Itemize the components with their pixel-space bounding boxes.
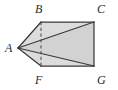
- vertex-label-g: G: [97, 74, 106, 86]
- vertex-label-a: A: [5, 42, 12, 54]
- vertex-label-c: C: [97, 3, 105, 15]
- vertex-label-f: F: [35, 74, 42, 86]
- vertex-label-b: B: [35, 3, 42, 15]
- geometry-figure: A B C F G: [0, 0, 118, 90]
